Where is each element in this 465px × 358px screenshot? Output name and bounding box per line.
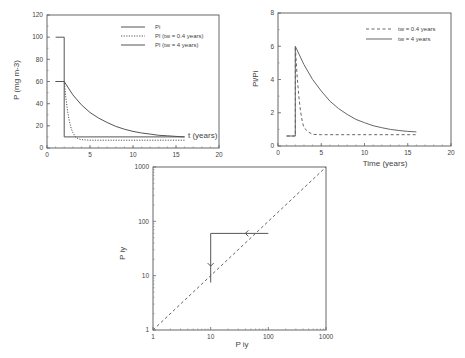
legend-label: Pl (tw = 4 years) [155,42,199,48]
y-tick-label: 60 [36,78,44,85]
x-tick-label: 15 [172,151,180,158]
chart-concentration: 05101520020406080100120t (years)P (mg m-… [12,11,223,158]
y-tick-label: 1 [145,326,149,333]
x-tick-label: 0 [45,151,49,158]
x-axis-title: Time (years) [363,159,408,168]
y-tick-label: 1000 [135,163,150,170]
x-axis-title: t (years) [188,131,218,140]
y-tick-label: 0 [39,144,43,151]
x-axis-title: P iy [235,340,248,349]
x-tick-label: 10 [361,149,369,156]
y-tick-label: 8 [270,9,274,16]
series-line [153,167,326,330]
x-tick-label: 100 [263,333,274,340]
legend-label: tw = 4 years [398,36,431,42]
x-tick-label: 10 [129,151,137,158]
chart-log-phase: 11010010001101001000P iyP iy [118,163,334,349]
legend-label: tw = 0.4 years [398,26,436,32]
legend-label: Pl (tw = 0.4 years) [155,33,204,39]
legend: tw = 0.4 yearstw = 4 years [366,26,436,42]
y-tick-label: 10 [142,272,150,279]
y-tick-label: 6 [270,43,274,50]
legend: PiPl (tw = 0.4 years)Pl (tw = 4 years) [121,24,204,48]
x-tick-label: 0 [276,149,280,156]
y-tick-label: 120 [32,11,43,18]
series-line [287,46,417,136]
y-axis-title: P (mg m-3) [12,60,21,100]
x-tick-label: 5 [319,149,323,156]
x-tick-label: 1 [151,333,155,340]
legend-label: Pi [155,24,160,30]
y-tick-label: 4 [270,76,274,83]
x-tick-label: 20 [447,149,455,156]
x-tick-label: 20 [215,151,223,158]
y-tick-label: 40 [36,100,44,107]
y-axis-title: Pl/Pi [251,70,260,87]
y-tick-label: 2 [270,109,274,116]
series-line [56,82,185,137]
x-tick-label: 1000 [319,333,334,340]
series-line [287,46,417,136]
x-tick-label: 10 [207,333,215,340]
y-tick-label: 0 [270,142,274,149]
x-tick-label: 5 [88,151,92,158]
series-line [56,37,185,137]
y-tick-label: 80 [36,56,44,63]
y-tick-label: 100 [32,33,43,40]
y-tick-label: 100 [138,218,149,225]
y-tick-label: 20 [36,122,44,129]
figure: 05101520020406080100120t (years)P (mg m-… [0,0,465,358]
series-line [56,82,185,141]
chart-ratio: 0510152002468Time (years)Pl/Pitw = 0.4 y… [251,9,455,168]
series-line [211,233,269,282]
y-axis-title: P iy [118,247,127,260]
x-tick-label: 15 [404,149,412,156]
